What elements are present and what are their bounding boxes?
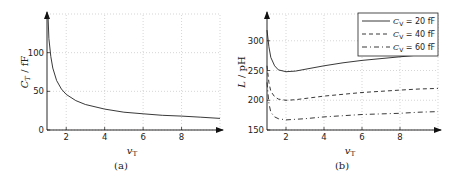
series-line-2 <box>267 82 438 120</box>
x-tick-label: 8 <box>179 132 184 142</box>
x-axis-label-b: vT <box>345 145 356 158</box>
y-tick-label: 0 <box>39 125 44 135</box>
y-tick-label: 250 <box>248 66 264 76</box>
x-tick-label: 8 <box>397 132 402 142</box>
legend: CV = 20 fF CV = 40 fF CV = 60 fF <box>358 13 438 56</box>
x-tick-label: 2 <box>283 132 288 142</box>
x-tick-label: 4 <box>321 132 326 142</box>
series-line-0 <box>48 16 220 119</box>
y-axis-label-a: CT / fF <box>19 56 32 89</box>
x-tick-label: 2 <box>64 132 69 142</box>
chart-panel-a: 2468050100 <box>28 12 223 142</box>
y-tick-label: 150 <box>248 125 264 135</box>
caption-a: (a) <box>114 160 128 171</box>
y-axis-label-b: L / pH <box>236 56 247 89</box>
x-axis-label-a: vT <box>127 145 138 158</box>
figure: 2468050100 2468150200250300 CT / fF vT (… <box>0 0 451 179</box>
x-tick-label: 4 <box>102 132 107 142</box>
x-tick-label: 6 <box>359 132 364 142</box>
y-tick-label: 300 <box>248 36 264 46</box>
y-tick-label: 200 <box>248 95 264 105</box>
caption-b: (b) <box>335 160 349 171</box>
y-tick-label: 100 <box>28 48 44 58</box>
y-tick-label: 50 <box>33 86 44 96</box>
x-tick-label: 6 <box>140 132 145 142</box>
